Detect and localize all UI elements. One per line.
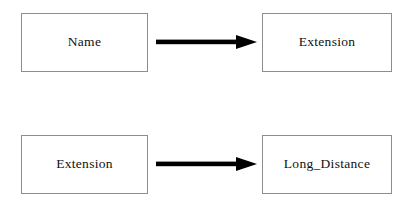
diagram-canvas: Name Extension Extension Long_Distance <box>0 0 413 206</box>
entity-label: Name <box>68 35 101 49</box>
entity-label: Long_Distance <box>284 157 370 171</box>
entity-box-target[interactable]: Long_Distance <box>262 135 392 194</box>
entity-box-source[interactable]: Name <box>21 13 148 72</box>
entity-box-target[interactable]: Extension <box>262 13 392 72</box>
right-arrow-icon <box>156 156 258 172</box>
dependency-row: Extension Long_Distance <box>0 134 413 194</box>
right-arrow-icon <box>156 34 258 50</box>
entity-label: Extension <box>56 157 113 171</box>
entity-label: Extension <box>299 35 356 49</box>
entity-box-source[interactable]: Extension <box>21 135 148 194</box>
dependency-row: Name Extension <box>0 12 413 72</box>
